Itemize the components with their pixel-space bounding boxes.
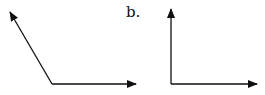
figure-label-b: b. [126,3,140,21]
obtuse-ray-upper-left [10,12,52,84]
obtuse-angle-figure [10,12,136,84]
right-angle-figure [171,9,257,84]
